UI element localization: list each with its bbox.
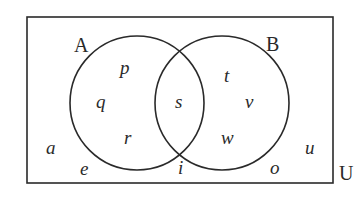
element-v: v [245,91,254,112]
element-s: s [175,91,182,112]
element-e: e [80,158,88,179]
set-a-label: A [74,34,89,56]
set-a-circle [70,36,204,170]
element-i: i [178,157,183,178]
element-u: u [305,137,315,158]
venn-diagram: A B U p q r s t v w a e i o u [0,0,359,197]
element-p: p [118,57,130,78]
element-r: r [124,127,132,148]
element-o: o [270,157,280,178]
element-a: a [46,137,56,158]
element-t: t [224,65,230,86]
set-b-label: B [266,33,279,55]
element-q: q [96,91,106,112]
universe-label: U [339,162,354,184]
element-w: w [221,127,234,148]
